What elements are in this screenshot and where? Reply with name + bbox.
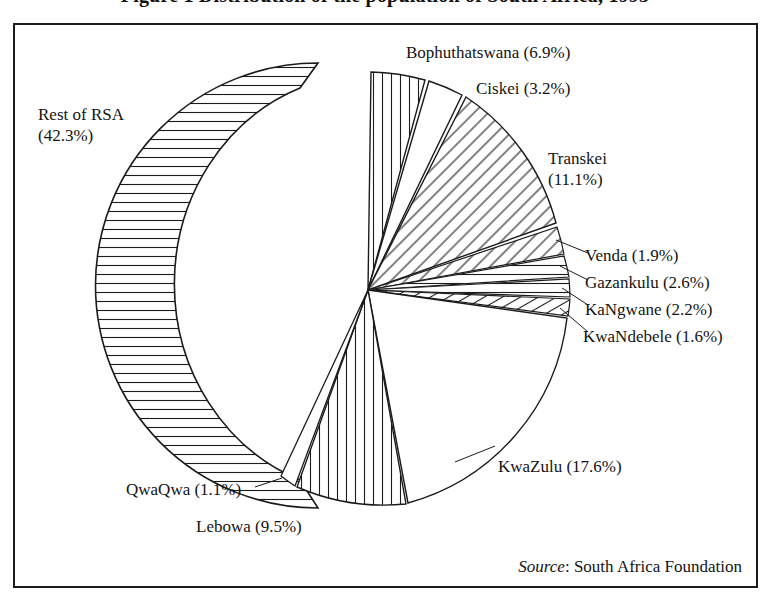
slice-label-lebowa: Lebowa (9.5%) bbox=[196, 516, 302, 537]
slice-label-transkei-line2: (11.1%) bbox=[548, 170, 603, 189]
slice-label-venda: Venda (1.9%) bbox=[585, 245, 678, 266]
slice-label-bophuthatswana: Bophuthatswana (6.9%) bbox=[406, 42, 570, 63]
figure-container: Figure 1 Distribution of the population … bbox=[0, 0, 770, 615]
slice-label-kwazulu: KwaZulu (17.6%) bbox=[498, 456, 622, 477]
slice-label-rest-of-rsa-line2: (42.3%) bbox=[38, 126, 93, 145]
slice-label-rest-of-rsa: Rest of RSA (42.3%) bbox=[38, 104, 188, 146]
source-separator: : bbox=[565, 557, 574, 576]
slice-label-kwandebele: KwaNdebele (1.6%) bbox=[583, 326, 723, 347]
slice-label-rest-of-rsa-line1: Rest of RSA bbox=[38, 105, 124, 124]
slice-label-kangwane: KaNgwane (2.2%) bbox=[585, 299, 712, 320]
source-label: Source bbox=[518, 557, 565, 576]
slice-label-gazankulu: Gazankulu (2.6%) bbox=[585, 272, 710, 293]
slice-label-transkei-line1: Transkei bbox=[548, 149, 607, 168]
slice-label-ciskei: Ciskei (3.2%) bbox=[476, 78, 570, 99]
source-note: Source: South Africa Foundation bbox=[518, 557, 742, 577]
source-value: South Africa Foundation bbox=[574, 557, 742, 576]
slice-label-qwaqwa: QwaQwa (1.1%) bbox=[126, 479, 241, 500]
slice-label-transkei: Transkei (11.1%) bbox=[548, 148, 658, 190]
